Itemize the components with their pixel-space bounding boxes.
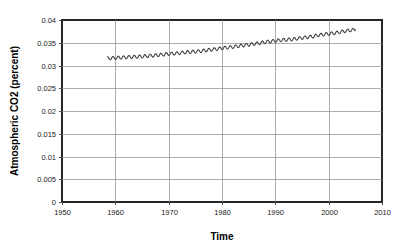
y-tick-label: 0.035 [37, 39, 56, 48]
x-tick-label: 2010 [374, 208, 391, 217]
y-tick-label: 0.025 [37, 84, 56, 93]
plot-area [62, 20, 382, 202]
y-tick-label: 0 [52, 198, 56, 207]
y-tick-label: 0.02 [41, 107, 56, 116]
x-tick-label: 1970 [161, 208, 178, 217]
x-tick-label: 1960 [107, 208, 124, 217]
x-tick-label: 2000 [321, 208, 338, 217]
y-tick-label: 0.015 [37, 130, 56, 139]
x-tick-label: 1980 [214, 208, 231, 217]
y-tick-label: 0.005 [37, 175, 56, 184]
x-axis-title: Time [210, 231, 234, 242]
y-tick-label: 0.03 [41, 62, 56, 71]
x-tick-label: 1950 [54, 208, 71, 217]
x-tick-label: 1990 [267, 208, 284, 217]
x-axis-tick-labels: 1950196019701980199020002010 [54, 208, 391, 217]
chart-canvas: 00.0050.010.0150.020.0250.030.0350.04 19… [0, 0, 407, 250]
y-axis-tick-labels: 00.0050.010.0150.020.0250.030.0350.04 [37, 16, 56, 207]
co2-chart: 00.0050.010.0150.020.0250.030.0350.04 19… [0, 0, 407, 250]
y-axis-title: Atmospheric CO2 (percent) [9, 46, 20, 176]
y-tick-label: 0.01 [41, 153, 56, 162]
y-tick-label: 0.04 [41, 16, 56, 25]
